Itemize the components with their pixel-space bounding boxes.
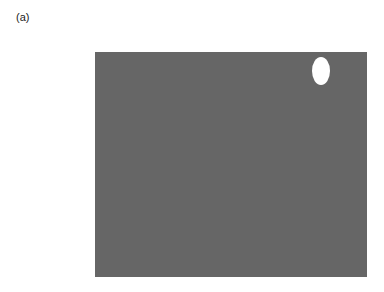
bright-spot (312, 57, 330, 85)
image-panel (95, 52, 367, 277)
panel-label: (a) (16, 11, 29, 23)
